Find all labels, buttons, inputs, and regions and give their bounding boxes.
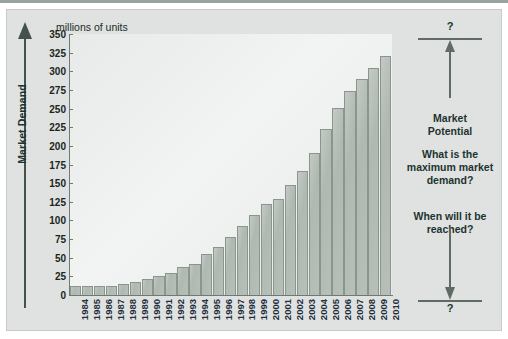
y-tick-mark [69,34,73,35]
y-tick-mark [69,183,73,184]
x-axis-labels: 1984198519861987198819891990199119921993… [70,0,400,339]
y-tick-mark [69,220,73,221]
x-tick-label: 2008 [366,299,377,320]
y-tick-label: 325 [49,47,66,58]
x-tick-label: 1989 [139,299,150,320]
y-tick-label: 175 [49,159,66,170]
y-tick-label: 50 [55,252,66,263]
x-tick-label: 1992 [175,299,186,320]
y-tick-label: 275 [49,84,66,95]
x-tick-label: 2009 [378,299,389,320]
y-tick-label: 0 [60,290,66,301]
market-potential-label-line2: Potential [404,125,496,138]
y-axis-ticks: 0255075100125150175200225250275300325350 [0,0,66,339]
market-potential-annotation: ? Market Potential What is the maximum m… [404,20,496,320]
y-tick-mark [69,258,73,259]
y-tick-mark [69,127,73,128]
x-tick-label: 1987 [115,299,126,320]
x-tick-label: 1996 [223,299,234,320]
y-tick-label: 125 [49,196,66,207]
x-tick-label: 2000 [270,299,281,320]
y-tick-label: 200 [49,140,66,151]
y-tick-mark [69,295,73,296]
y-tick-label: 75 [55,234,66,245]
x-tick-label: 1998 [246,299,257,320]
x-tick-label: 1995 [211,299,222,320]
x-tick-label: 2007 [354,299,365,320]
y-tick-label: 150 [49,178,66,189]
x-tick-label: 1993 [187,299,198,320]
y-tick-mark [69,53,73,54]
x-tick-label: 1986 [103,299,114,320]
market-demand-figure: Market Demand millions of units 02550751… [0,0,508,339]
market-potential-label-line1: Market [404,112,496,125]
question-max-demand: What is the maximum market demand? [404,148,496,187]
y-tick-mark [69,109,73,110]
y-tick-mark [69,165,73,166]
arrow-up-icon [444,40,456,98]
x-tick-label: 1990 [151,299,162,320]
y-tick-mark [69,276,73,277]
x-tick-label: 1999 [258,299,269,320]
x-tick-label: 1991 [163,299,174,320]
x-tick-label: 1988 [127,299,138,320]
x-tick-label: 1984 [79,299,90,320]
y-tick-mark [69,146,73,147]
y-tick-mark [69,239,73,240]
y-tick-label: 100 [49,215,66,226]
x-tick-label: 2004 [318,299,329,320]
y-tick-label: 25 [55,271,66,282]
question-mark-top: ? [404,20,496,32]
y-tick-mark [69,202,73,203]
x-tick-label: 1985 [91,299,102,320]
market-potential-label: Market Potential [404,112,496,138]
x-tick-label: 2005 [330,299,341,320]
x-tick-label: 2002 [294,299,305,320]
x-tick-label: 2001 [282,299,293,320]
arrow-down-icon [444,228,456,300]
y-tick-mark [69,90,73,91]
x-tick-label: 1997 [235,299,246,320]
x-tick-label: 2010 [390,299,401,320]
y-tick-mark [69,71,73,72]
x-tick-label: 1994 [199,299,210,320]
y-tick-label: 300 [49,66,66,77]
question-mark-bottom: ? [404,302,496,314]
y-tick-label: 350 [49,29,66,40]
x-tick-label: 2003 [306,299,317,320]
y-tick-label: 225 [49,122,66,133]
y-tick-label: 250 [49,103,66,114]
x-tick-label: 2006 [342,299,353,320]
